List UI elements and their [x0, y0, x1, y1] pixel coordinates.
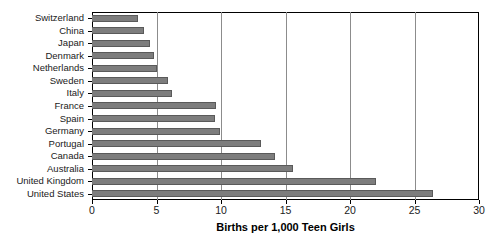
bar — [92, 140, 261, 147]
bar — [92, 190, 433, 197]
bar — [92, 178, 376, 185]
tick-label-5: 5 — [137, 205, 177, 216]
tick-label-30: 30 — [459, 205, 499, 216]
bar — [92, 153, 275, 160]
bar-slot — [92, 37, 479, 50]
tick-label-15: 15 — [266, 205, 306, 216]
bar — [92, 165, 293, 172]
bar-slot — [92, 112, 479, 125]
x-axis-title: Births per 1,000 Teen Girls — [92, 222, 479, 233]
bar — [92, 52, 154, 59]
category-label-switzerland: Switzerland — [35, 13, 84, 23]
category-label-australia: Australia — [47, 164, 84, 174]
bar-chart: SwitzerlandChinaJapanDenmarkNetherlandsS… — [0, 0, 502, 245]
category-label-france: France — [54, 101, 84, 111]
bar — [92, 15, 138, 22]
bar-slot — [92, 75, 479, 88]
category-label-canada: Canada — [51, 151, 84, 161]
bar-slot — [92, 125, 479, 138]
bar-slot — [92, 25, 479, 38]
bar-slot — [92, 175, 479, 188]
bar — [92, 77, 168, 84]
bar — [92, 40, 150, 47]
bar-slot — [92, 62, 479, 75]
category-label-sweden: Sweden — [50, 76, 84, 86]
bar-slot — [92, 162, 479, 175]
bar — [92, 27, 144, 34]
category-label-italy: Italy — [67, 88, 84, 98]
bar — [92, 65, 157, 72]
bar-slot — [92, 12, 479, 25]
tick-label-20: 20 — [330, 205, 370, 216]
bar — [92, 128, 220, 135]
tick-label-25: 25 — [395, 205, 435, 216]
bar — [92, 115, 215, 122]
bar — [92, 102, 216, 109]
bar-slot — [92, 100, 479, 113]
category-label-united-states: United States — [27, 189, 84, 199]
category-label-portugal: Portugal — [49, 139, 84, 149]
category-label-germany: Germany — [45, 126, 84, 136]
bar-slot — [92, 150, 479, 163]
category-axis-labels: SwitzerlandChinaJapanDenmarkNetherlandsS… — [0, 12, 88, 200]
tick-label-10: 10 — [201, 205, 241, 216]
bar — [92, 90, 172, 97]
plot-area — [92, 12, 479, 200]
category-label-netherlands: Netherlands — [33, 63, 84, 73]
bar-slot — [92, 50, 479, 63]
bar-slot — [92, 87, 479, 100]
category-label-japan: Japan — [58, 38, 84, 48]
bar-slot — [92, 187, 479, 200]
category-label-spain: Spain — [60, 114, 84, 124]
category-label-united-kingdom: United Kingdom — [16, 176, 84, 186]
category-label-denmark: Denmark — [45, 51, 84, 61]
bar-slot — [92, 137, 479, 150]
category-label-china: China — [59, 26, 84, 36]
tick-label-0: 0 — [72, 205, 112, 216]
bars-layer — [92, 12, 479, 200]
